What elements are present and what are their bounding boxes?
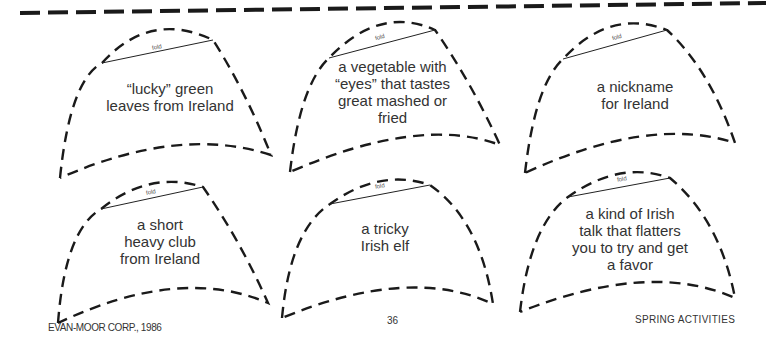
- publisher-credit: EVAN-MOOR CORP., 1986: [48, 322, 162, 333]
- cut-line: [20, 3, 766, 13]
- page-number: 36: [387, 315, 398, 326]
- card-clue-3: a nickname for Ireland: [580, 78, 690, 112]
- card-clue-5: a tricky Irish elf: [340, 220, 430, 254]
- card-clue-6: a kind of Irish talk that flatters you t…: [565, 205, 695, 273]
- card-clue-1: “lucky” green leaves from Ireland: [95, 80, 245, 114]
- section-title: SPRING ACTIVITIES: [635, 314, 735, 325]
- card-clue-2: a vegetable with “eyes” that tastes grea…: [330, 58, 455, 126]
- cutout-shapes: [0, 0, 766, 361]
- card-clue-4: a short heavy club from Ireland: [100, 216, 220, 267]
